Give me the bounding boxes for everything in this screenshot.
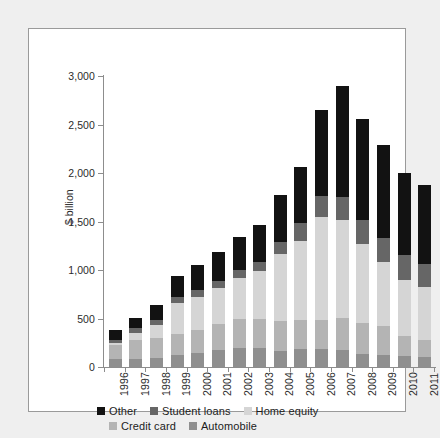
bar-segment-student-loans xyxy=(253,262,266,272)
bar-segment-automobile xyxy=(212,350,225,367)
bar-segment-other xyxy=(191,265,204,291)
bar-segment-home-equity xyxy=(274,254,287,321)
bar-1999 xyxy=(171,276,184,367)
bar-segment-credit-card xyxy=(336,318,349,350)
bar-segment-home-equity xyxy=(294,241,307,321)
bar-2003 xyxy=(253,225,266,367)
x-axis-label-2002: 2002 xyxy=(242,372,254,396)
x-axis-label-2007: 2007 xyxy=(345,372,357,396)
bar-2002 xyxy=(233,237,246,367)
legend-row: Credit cardAutomobile xyxy=(109,420,417,432)
bar-segment-other xyxy=(129,318,142,328)
bar-1997 xyxy=(129,318,142,367)
bar-segment-other xyxy=(109,330,122,340)
x-axis-label-2001: 2001 xyxy=(221,372,233,396)
bar-segment-credit-card xyxy=(294,320,307,348)
x-axis-label-1999: 1999 xyxy=(180,372,192,396)
y-axis-tick-label: 1,500 xyxy=(29,216,95,228)
bar-2007 xyxy=(336,86,349,367)
bar-segment-automobile xyxy=(418,357,431,367)
bar-2000 xyxy=(191,265,204,367)
bar-segment-student-loans xyxy=(356,220,369,244)
bar-segment-other xyxy=(398,173,411,256)
bar-segment-student-loans xyxy=(212,281,225,288)
bar-segment-credit-card xyxy=(171,334,184,355)
bar-segment-home-equity xyxy=(171,303,184,335)
bar-segment-automobile xyxy=(191,353,204,367)
legend-swatch-other xyxy=(97,407,105,415)
bar-segment-credit-card xyxy=(315,320,328,349)
bar-segment-student-loans xyxy=(233,270,246,278)
bar-segment-student-loans xyxy=(418,264,431,287)
bar-segment-credit-card xyxy=(129,340,142,359)
y-axis-tick-label: 0 xyxy=(29,361,95,373)
legend-swatch-credit-card xyxy=(109,422,117,430)
bar-segment-home-equity xyxy=(233,278,246,320)
bar-segment-home-equity xyxy=(253,271,266,318)
bar-segment-student-loans xyxy=(398,255,411,279)
bar-2004 xyxy=(274,195,287,367)
legend-item-student-loans[interactable]: Student loans xyxy=(150,405,231,417)
bar-2008 xyxy=(356,119,369,367)
x-axis-label-1997: 1997 xyxy=(139,372,151,396)
bar-segment-automobile xyxy=(109,359,122,367)
bar-segment-automobile xyxy=(171,355,184,367)
bar-segment-credit-card xyxy=(356,323,369,355)
bar-segment-credit-card xyxy=(191,330,204,353)
legend-item-credit-card[interactable]: Credit card xyxy=(109,420,176,432)
bar-2010 xyxy=(398,173,411,367)
legend-label: Other xyxy=(109,405,137,417)
bar-segment-credit-card xyxy=(418,340,431,357)
y-axis-tick-label: 3,000 xyxy=(29,70,95,82)
y-axis-tick-label: 1,000 xyxy=(29,264,95,276)
bar-segment-credit-card xyxy=(274,321,287,351)
bar-segment-automobile xyxy=(377,355,390,367)
bar-segment-student-loans xyxy=(294,223,307,240)
bar-segment-student-loans xyxy=(336,197,349,219)
legend-item-other[interactable]: Other xyxy=(97,405,137,417)
bar-segment-automobile xyxy=(336,350,349,367)
bar-segment-credit-card xyxy=(253,319,266,349)
bar-segment-credit-card xyxy=(109,345,122,360)
legend-item-home-equity[interactable]: Home equity xyxy=(244,405,319,417)
bar-segment-other xyxy=(274,195,287,242)
bar-segment-home-equity xyxy=(129,333,142,340)
x-axis-tick xyxy=(104,367,105,372)
bar-segment-home-equity xyxy=(418,287,431,340)
legend-item-automobile[interactable]: Automobile xyxy=(189,420,257,432)
bar-segment-other xyxy=(253,225,266,261)
bar-2011 xyxy=(418,185,431,367)
bar-segment-automobile xyxy=(253,348,266,367)
bar-2005 xyxy=(294,167,307,367)
bar-segment-home-equity xyxy=(315,217,328,321)
bar-segment-home-equity xyxy=(336,220,349,318)
x-axis-label-2011: 2011 xyxy=(428,373,440,396)
legend-swatch-student-loans xyxy=(150,407,158,415)
bar-segment-home-equity xyxy=(150,325,163,339)
x-axis-label-2005: 2005 xyxy=(304,372,316,396)
bar-segment-credit-card xyxy=(398,336,411,357)
bar-segment-home-equity xyxy=(398,280,411,336)
bar-1998 xyxy=(150,305,163,367)
bar-segment-other xyxy=(150,305,163,320)
x-axis-label-2000: 2000 xyxy=(201,372,213,396)
bar-segment-student-loans xyxy=(315,196,328,217)
bar-segment-other xyxy=(212,252,225,282)
bar-segment-automobile xyxy=(274,351,287,367)
legend-label: Credit card xyxy=(121,420,176,432)
legend-label: Automobile xyxy=(201,420,257,432)
x-axis-tick xyxy=(434,367,435,372)
legend-row: OtherStudent loansHome equity xyxy=(97,405,417,417)
bar-segment-other xyxy=(171,276,184,297)
y-axis-tick-label: 2,500 xyxy=(29,119,95,131)
x-axis-label-1996: 1996 xyxy=(118,372,130,396)
bar-segment-credit-card xyxy=(150,338,163,357)
bar-segment-student-loans xyxy=(377,238,390,262)
plot-area xyxy=(104,76,434,367)
x-axis-label-2006: 2006 xyxy=(325,372,337,396)
x-axis-label-1998: 1998 xyxy=(160,372,172,396)
bar-segment-other xyxy=(315,110,328,196)
y-axis-tick-label: 500 xyxy=(29,313,95,325)
bar-segment-other xyxy=(418,185,431,264)
bar-segment-home-equity xyxy=(356,244,369,323)
